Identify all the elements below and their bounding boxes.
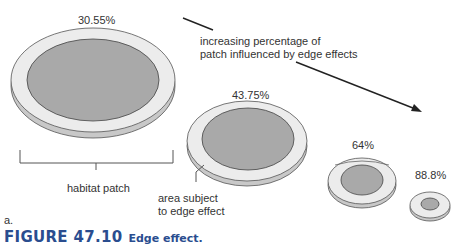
disc-small — [328, 158, 396, 208]
disc-medium — [187, 101, 307, 186]
edge-label-line2: to edge effect — [158, 205, 224, 218]
disc-medium-percent: 43.75% — [232, 89, 269, 102]
trend-arrow — [296, 62, 422, 112]
trend-label-line1: increasing percentage of — [200, 35, 320, 48]
figure-caption: FIGURE 47.10Edge effect. — [4, 228, 203, 246]
edge-label-line1: area subject — [158, 192, 218, 205]
figure-number: FIGURE 47.10 — [4, 228, 122, 246]
disc-large — [11, 28, 175, 138]
trend-line-segment — [183, 18, 213, 30]
habitat-patch-label: habitat patch — [67, 182, 130, 195]
disc-large-percent: 30.55% — [78, 14, 115, 27]
figure-title: Edge effect. — [128, 232, 202, 245]
trend-label-line2: patch influenced by edge effects — [200, 48, 358, 61]
panel-label: a. — [4, 214, 13, 227]
disc-smallest-percent: 88.8% — [415, 169, 446, 182]
disc-smallest — [410, 192, 450, 221]
disc-small-percent: 64% — [352, 139, 374, 152]
habitat-patch-bracket — [20, 150, 173, 170]
